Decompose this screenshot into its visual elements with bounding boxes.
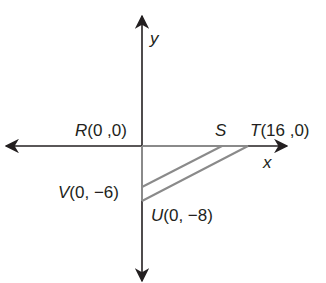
point-R-coords: (0 ,0) — [87, 121, 127, 140]
point-R-name: R — [75, 121, 87, 140]
triangle-RTU — [142, 146, 248, 201]
point-U-coords: (0, −8) — [163, 206, 213, 225]
point-V-label: V(0, −6) — [58, 183, 119, 202]
x-axis-label: x — [262, 153, 272, 172]
point-T-label: T(16 ,0) — [250, 121, 310, 140]
coordinate-diagram: y x R(0 ,0) S T(16 ,0) V(0, −6) U(0, −8) — [0, 0, 326, 283]
point-S-label: S — [215, 121, 227, 140]
point-U-label: U(0, −8) — [151, 206, 213, 225]
point-R-label: R(0 ,0) — [75, 121, 127, 140]
point-V-coords: (0, −6) — [69, 183, 119, 202]
point-U-name: U — [151, 206, 164, 225]
y-axis-label: y — [149, 29, 160, 48]
point-T-coords: (16 ,0) — [260, 121, 309, 140]
